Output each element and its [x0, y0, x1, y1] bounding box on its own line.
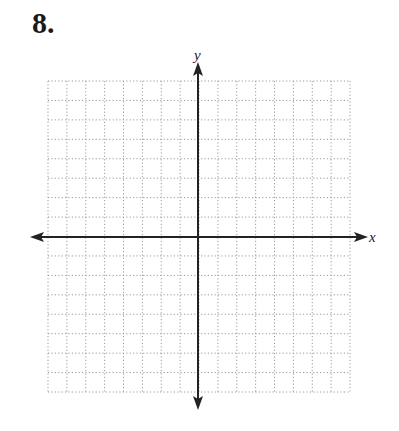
- x-axis: x: [30, 229, 376, 245]
- y-axis: y: [192, 47, 203, 410]
- x-axis-label: x: [368, 229, 376, 245]
- y-axis-label: y: [192, 47, 201, 63]
- coordinate-plane: x y: [0, 0, 399, 431]
